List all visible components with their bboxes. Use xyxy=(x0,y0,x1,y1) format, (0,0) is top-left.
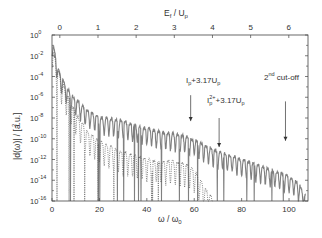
arrow-head-icon xyxy=(217,143,221,147)
series-layer xyxy=(52,46,305,201)
y-tick-label: 10-14 xyxy=(30,174,46,185)
x-tick-label: 80 xyxy=(237,205,246,214)
top-tick-label: 1 xyxy=(96,23,101,32)
x-tick-label: 40 xyxy=(142,205,151,214)
top-tick-label: 5 xyxy=(248,23,253,32)
ticks-layer: 020406080100012345610010-210-410-610-810… xyxy=(30,23,308,214)
top-tick-label: 4 xyxy=(210,23,215,32)
top-tick-label: 3 xyxy=(172,23,177,32)
y-tick-label: 10-12 xyxy=(30,154,46,165)
arrow-head-icon xyxy=(283,137,287,141)
x-axis-label: ω / ω0 xyxy=(158,214,182,225)
solid-spectrum-line xyxy=(52,46,305,201)
top-tick-label: 6 xyxy=(287,23,292,32)
y-tick-label: 10-8 xyxy=(30,112,43,123)
x-tick-label: 100 xyxy=(282,205,296,214)
y-tick-label: 10-2 xyxy=(30,50,43,61)
dotted-spectrum-line xyxy=(52,52,213,201)
x-tick-label: 60 xyxy=(190,205,199,214)
y-axis-label: |d(ω)| / [a.u.] xyxy=(12,113,22,160)
y-tick-label: 10-6 xyxy=(30,91,43,102)
y-tick-label: 10-4 xyxy=(30,71,43,82)
x-tick-label: 20 xyxy=(95,205,104,214)
y-tick-label: 10-10 xyxy=(30,133,46,144)
x-tick-label: 0 xyxy=(50,205,55,214)
y-tick-label: 100 xyxy=(30,29,41,40)
hhg-spectrum-chart: 020406080100012345610010-210-410-610-810… xyxy=(0,0,322,238)
y-tick-label: 10-16 xyxy=(30,195,46,206)
top-tick-label: 0 xyxy=(58,23,63,32)
annotation-ip2-cutoff: Ip2++3.17Up xyxy=(207,94,245,106)
top-axis-label: Ef / Up xyxy=(164,8,189,19)
annotation-second-cutoff: 2nd cut-off xyxy=(264,71,300,82)
top-tick-label: 2 xyxy=(134,23,139,32)
annotation-ip-cutoff: Ip+3.17Up xyxy=(186,76,220,86)
arrow-head-icon xyxy=(189,117,193,121)
